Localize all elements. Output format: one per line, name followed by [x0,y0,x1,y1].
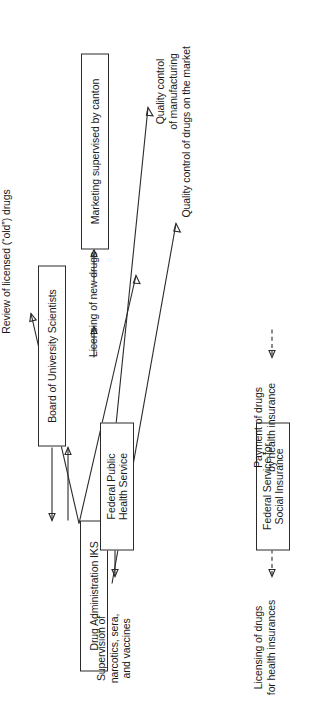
edge-label-review-of-licensed-drugs: Review of licensed (“old”) drugs [0,131,13,391]
edge-label-payment-of-drugs: Payment of drugs by health insurance [252,363,277,491]
edge-licensing-health-insurances [269,549,275,576]
diagram-canvas: Board of University Scientists Drug Admi… [0,0,332,719]
edge-label-supervision-narcotics: Supervision of narcotics, sera, and vacc… [95,585,133,711]
edge-label-licensing-for-health-insurances: Licensing of drugs for health insurances [252,583,277,711]
node-federal-public-health-service[interactable]: Federal Public Health Service [100,422,134,550]
node-board-of-university-scientists[interactable]: Board of University Scientists [38,265,66,446]
edge-label-quality-control-of-drugs-on-the-market: Quality control of drugs on the market [180,1,193,217]
edge-label-quality-control-of-manufacturing: Quality control of manufacturing [154,19,179,163]
edge-payment-of-drugs [269,329,275,357]
edge-label-licensing-of-new-drugs: Licensing of new drugs [87,214,100,394]
edge-board-to-iks [49,447,55,520]
